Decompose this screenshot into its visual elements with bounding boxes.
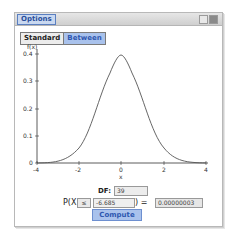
maximize-icon[interactable]	[199, 15, 208, 24]
title-bar[interactable]: Options	[15, 13, 222, 26]
density-curve	[39, 55, 206, 163]
operator-select[interactable]: ≤	[77, 198, 91, 208]
df-input[interactable]: 39	[114, 186, 148, 196]
options-dialog: Options Standard Between f(x) 0.4 0.3 0.…	[14, 12, 223, 227]
density-plot: f(x) 0.4 0.3 0.2 0.1 0 -4 -2 0 2 4 x	[15, 43, 222, 183]
window-title: Options	[17, 14, 56, 25]
df-label: DF:	[98, 187, 111, 195]
y-tick-label: 0.3	[23, 77, 33, 84]
x-tick-label: 4	[204, 166, 208, 173]
y-tick-label: 0.2	[23, 105, 33, 112]
x-axis-label: x	[119, 173, 123, 180]
probability-label: P(X	[63, 198, 76, 207]
y-axis-label: f(x)	[27, 43, 37, 50]
y-tick-label: 0	[29, 159, 33, 166]
probability-result[interactable]: 0.00000003	[155, 198, 203, 208]
compute-button[interactable]: Compute	[92, 209, 142, 221]
x-tick-label: -4	[33, 166, 39, 173]
y-tick-label: 0.1	[23, 132, 33, 139]
equals-label: ) =	[135, 198, 147, 207]
x-tick-label: -2	[75, 166, 81, 173]
x-tick-label: 2	[162, 166, 166, 173]
x-tick-label: 0	[119, 166, 123, 173]
y-tick-label: 0.4	[23, 50, 33, 57]
t-value-input[interactable]: -6.685	[93, 198, 135, 208]
close-icon[interactable]	[209, 15, 218, 24]
